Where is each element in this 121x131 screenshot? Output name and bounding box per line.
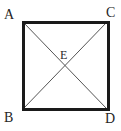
geometry-diagram: A C B D E bbox=[0, 0, 121, 131]
square-with-diagonals-figure bbox=[0, 0, 121, 131]
vertex-label-c: C bbox=[106, 6, 115, 20]
vertex-label-a: A bbox=[4, 8, 14, 22]
vertex-label-d: D bbox=[105, 112, 115, 126]
vertex-label-b: B bbox=[4, 111, 13, 125]
center-point-label-e: E bbox=[60, 49, 67, 61]
